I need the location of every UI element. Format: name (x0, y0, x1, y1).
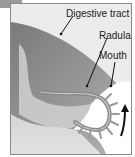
radula-illustration (11, 4, 131, 154)
label-mouth: Mouth (99, 50, 127, 61)
label-radula: Radula (99, 30, 131, 41)
label-digestive-tract: Digestive tract (66, 8, 129, 19)
radula-diagram: Digestive tract Radula Mouth (10, 3, 132, 155)
